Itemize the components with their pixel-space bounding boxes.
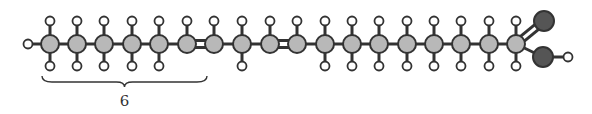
- hydrogen-atom: [403, 17, 412, 26]
- hydrogen-atom: [375, 62, 384, 71]
- hydrogen-atom: [512, 62, 521, 71]
- carbon-atom-2: [68, 35, 86, 53]
- hydrogen-atom: [73, 62, 82, 71]
- carbon-atom-1: [41, 35, 59, 53]
- hydrogen-atom: [321, 62, 330, 71]
- hydrogen-atom: [128, 62, 137, 71]
- hydrogen-atom: [155, 62, 164, 71]
- carbon-atom-7: [205, 35, 223, 53]
- hydrogen-atom: [348, 62, 357, 71]
- carbon-atom-13: [370, 35, 388, 53]
- hydrogen-atom: [512, 17, 521, 26]
- carbon-atom-6: [178, 35, 196, 53]
- brace-six-carbons: [42, 76, 207, 87]
- hydrogen-atom: [485, 62, 494, 71]
- carbon-atom-17: [480, 35, 498, 53]
- hydrogen-atom: [46, 17, 55, 26]
- fatty-acid-molecule-diagram: [0, 0, 592, 114]
- carbon-atom-8: [233, 35, 251, 53]
- carbonyl-oxygen-atom: [534, 11, 554, 31]
- carbon-atom-15: [425, 35, 443, 53]
- hydrogen-atom: [210, 17, 219, 26]
- carbon-atom-12: [343, 35, 361, 53]
- hydrogen-atom: [183, 17, 192, 26]
- hydrogen-atom: [46, 62, 55, 71]
- hydrogen-atom: [457, 62, 466, 71]
- hydrogen-atom: [238, 62, 247, 71]
- carbon-atom-11: [316, 35, 334, 53]
- carbon-atom-4: [123, 35, 141, 53]
- hydrogen-atom: [403, 62, 412, 71]
- hydrogen-atom: [128, 17, 137, 26]
- hydrogen-atom: [430, 62, 439, 71]
- hydrogen-atom: [24, 40, 33, 49]
- carbon-atom-3: [95, 35, 113, 53]
- hydroxyl-hydrogen-atom: [564, 53, 573, 62]
- carbon-atom-10: [288, 35, 306, 53]
- hydrogen-atom: [348, 17, 357, 26]
- hydrogen-atom: [73, 17, 82, 26]
- hydrogen-atom: [457, 17, 466, 26]
- carbon-atom-16: [452, 35, 470, 53]
- hydrogen-atom: [155, 17, 164, 26]
- hydrogen-atom: [100, 62, 109, 71]
- atoms-layer: [24, 11, 573, 71]
- carbon-atom-9: [261, 35, 279, 53]
- hydrogen-atom: [238, 17, 247, 26]
- carbon-atom-14: [398, 35, 416, 53]
- carbon-atom-5: [150, 35, 168, 53]
- hydrogen-atom: [293, 17, 302, 26]
- hydrogen-atom: [321, 17, 330, 26]
- brace-count-label: 6: [120, 92, 130, 110]
- hydrogen-atom: [485, 17, 494, 26]
- hydrogen-atom: [266, 17, 275, 26]
- hydrogen-atom: [375, 17, 384, 26]
- carbon-atom-18: [507, 35, 525, 53]
- hydrogen-atom: [430, 17, 439, 26]
- hydrogen-atom: [100, 17, 109, 26]
- hydroxyl-oxygen-atom: [533, 47, 553, 67]
